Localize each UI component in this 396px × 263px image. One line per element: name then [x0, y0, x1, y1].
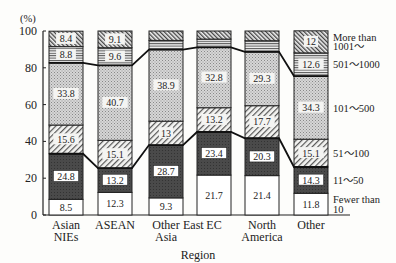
- x-tick-label-extra: East: [183, 218, 204, 232]
- value-label: 8.5: [60, 202, 73, 213]
- value-label: 33.8: [57, 88, 75, 99]
- legend-label: 10: [333, 204, 344, 215]
- legend-label: 501～1000: [333, 59, 380, 70]
- value-label: 9.1: [109, 34, 122, 45]
- legend-label: 11～50: [333, 175, 364, 186]
- connector-lines: [49, 47, 328, 168]
- value-label: 28.7: [157, 166, 175, 177]
- value-label: 11.8: [302, 199, 319, 210]
- value-label: 40.7: [106, 97, 124, 108]
- value-label: 13.2: [106, 175, 124, 186]
- bar-segment: [149, 40, 183, 49]
- x-tick-label: Asia: [155, 230, 178, 244]
- x-tick-label: NIEs: [54, 230, 79, 244]
- value-label: 12.3: [106, 198, 124, 209]
- legend-label: 1001～: [333, 41, 365, 52]
- y-tick-label: 40: [25, 134, 37, 148]
- x-tick-label: Other: [297, 218, 324, 232]
- bar-segment: [197, 39, 231, 47]
- x-tick-label: EC: [206, 218, 221, 232]
- legend: Fewer than1011～5051～100101～500501～1000Mo…: [333, 32, 381, 215]
- value-label: 34.3: [302, 102, 320, 113]
- y-tick-label: 0: [31, 208, 37, 222]
- value-label: 29.3: [253, 73, 271, 84]
- value-label: 24.8: [57, 171, 75, 182]
- bar-other-east-asia: [149, 31, 183, 215]
- x-tick-label: America: [241, 230, 283, 244]
- value-label: 13.2: [205, 114, 223, 125]
- y-tick-label: 80: [25, 61, 37, 75]
- value-label: 14.3: [302, 175, 320, 186]
- value-label: 15.1: [106, 149, 124, 160]
- value-label: 15.1: [302, 148, 320, 159]
- value-label: 12.6: [302, 59, 320, 70]
- value-label: 20.3: [253, 151, 271, 162]
- value-label: 9.3: [160, 201, 173, 212]
- value-label: 17.7: [253, 116, 271, 127]
- bar-segment: [245, 31, 279, 41]
- bar-segment: [197, 31, 231, 39]
- legend-label: 101～500: [333, 103, 375, 114]
- bar-segment: [245, 41, 279, 52]
- y-tick-label: 20: [25, 171, 37, 185]
- value-label: 23.4: [205, 148, 223, 159]
- value-label: 9.6: [109, 51, 122, 62]
- value-label: 21.7: [205, 190, 223, 201]
- value-label: 21.4: [253, 190, 271, 201]
- value-label: 8.8: [60, 49, 73, 60]
- bar-segment: [149, 31, 183, 40]
- legend-label: 51～100: [333, 148, 369, 159]
- y-axis-unit-label: (%): [20, 13, 36, 25]
- x-axis-title: Region: [181, 248, 216, 262]
- y-tick-label: 100: [19, 24, 37, 38]
- value-label: 15.6: [57, 134, 75, 145]
- bars: [49, 31, 328, 215]
- value-label: 8.4: [60, 33, 73, 44]
- connector-line: [49, 47, 328, 76]
- y-tick-label: 60: [25, 98, 37, 112]
- value-label: 13: [161, 128, 171, 139]
- stacked-bar-chart: 020406080100(%) 8.524.815.633.88.88.4Asi…: [0, 0, 396, 263]
- value-label: 12: [306, 36, 316, 47]
- x-tick-label: ASEAN: [95, 218, 135, 232]
- value-label: 38.9: [157, 80, 175, 91]
- connector-line: [49, 132, 328, 168]
- value-label: 32.8: [205, 72, 223, 83]
